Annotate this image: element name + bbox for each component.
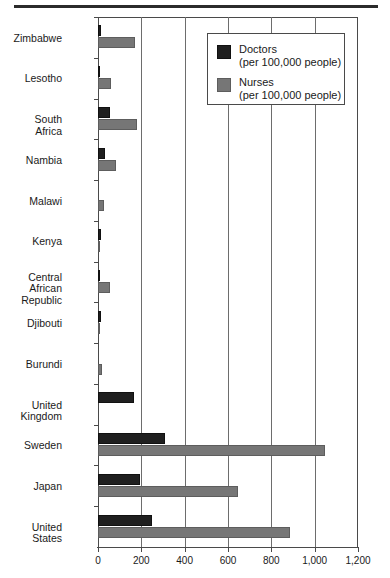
y-tick-mark <box>94 221 98 222</box>
bar-nurses <box>98 200 104 211</box>
figure: 02004006008001,0001,200 ZimbabweLesothoS… <box>0 0 390 578</box>
bar-nurses <box>98 241 100 252</box>
x-tick-label: 600 <box>220 555 237 567</box>
legend-sublabel-doctors: (per 100,000 people) <box>239 56 341 69</box>
bar-nurses <box>98 160 116 171</box>
y-tick-mark <box>94 343 98 344</box>
y-tick-mark <box>94 17 98 18</box>
gridline <box>185 17 186 547</box>
legend-label-doctors: Doctors <box>239 43 277 56</box>
bar-doctors <box>98 515 152 526</box>
category-label: Lesotho <box>25 73 62 85</box>
x-tick-label: 400 <box>176 555 193 567</box>
bar-doctors <box>98 311 101 322</box>
bar-nurses <box>98 445 325 456</box>
category-label: Sweden <box>24 440 62 452</box>
x-tick-label: 200 <box>133 555 150 567</box>
bar-doctors <box>98 474 140 485</box>
bar-doctors <box>98 66 100 77</box>
x-tick-mark <box>228 547 229 552</box>
category-label: Burundi <box>26 359 62 371</box>
x-tick-mark <box>98 547 99 552</box>
x-tick-label: 800 <box>263 555 280 567</box>
x-tick-label: 1,000 <box>302 555 327 567</box>
category-label: Nambia <box>26 155 62 167</box>
bar-doctors <box>98 433 165 444</box>
y-tick-mark <box>94 384 98 385</box>
x-tick-mark <box>315 547 316 552</box>
category-label: South Africa <box>35 114 62 137</box>
bar-nurses <box>98 282 110 293</box>
bar-doctors <box>98 107 110 118</box>
legend-sublabel-nurses: (per 100,000 people) <box>239 89 341 102</box>
category-label: Kenya <box>32 236 62 248</box>
bar-doctors <box>98 392 134 403</box>
category-label: United States <box>32 522 62 545</box>
x-tick-mark <box>185 547 186 552</box>
bar-nurses <box>98 323 100 334</box>
y-tick-mark <box>94 302 98 303</box>
category-label: United Kingdom <box>21 400 62 423</box>
doctors-swatch-icon <box>217 45 231 59</box>
category-label: Japan <box>33 481 62 493</box>
y-tick-mark <box>94 139 98 140</box>
x-tick-mark <box>271 547 272 552</box>
y-tick-mark <box>94 465 98 466</box>
bar-nurses <box>98 78 111 89</box>
bar-doctors <box>98 25 101 36</box>
legend-label-nurses: Nurses <box>239 76 274 89</box>
chart-legend: Doctors (per 100,000 people) Nurses (per… <box>207 33 345 105</box>
y-tick-mark <box>94 58 98 59</box>
bar-doctors <box>98 148 105 159</box>
x-tick-mark <box>358 547 359 552</box>
y-tick-mark <box>94 180 98 181</box>
bar-nurses <box>98 364 102 375</box>
category-label: Central African Republic <box>21 272 62 307</box>
y-tick-mark <box>94 425 98 426</box>
bar-nurses <box>98 527 290 538</box>
bar-nurses <box>98 486 238 497</box>
bar-nurses <box>98 37 135 48</box>
category-label: Malawi <box>29 196 62 208</box>
gridline <box>141 17 142 547</box>
y-tick-mark <box>94 506 98 507</box>
bar-nurses <box>98 119 137 130</box>
bar-doctors <box>98 270 100 281</box>
bar-doctors <box>98 229 101 240</box>
x-tick-label: 1,200 <box>345 555 370 567</box>
category-label: Zimbabwe <box>14 33 62 45</box>
nurses-swatch-icon <box>217 78 231 92</box>
y-tick-mark <box>94 262 98 263</box>
x-tick-mark <box>141 547 142 552</box>
y-tick-mark <box>94 99 98 100</box>
top-rule-divider <box>14 5 378 8</box>
x-tick-label: 0 <box>95 555 101 567</box>
category-label: Djibouti <box>27 318 62 330</box>
